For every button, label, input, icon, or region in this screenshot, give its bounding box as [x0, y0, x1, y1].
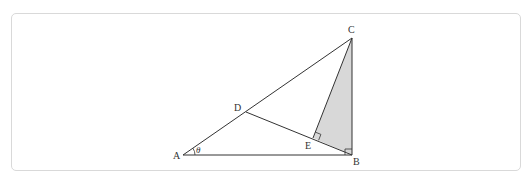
- shaded-triangle-ceb: [313, 38, 352, 155]
- label-d: D: [234, 102, 241, 113]
- geometry-figure: A B C D E θ: [0, 0, 532, 181]
- label-theta: θ: [196, 145, 201, 155]
- label-b: B: [353, 156, 360, 167]
- label-e: E: [305, 140, 311, 151]
- label-a: A: [173, 150, 181, 161]
- angle-arc-a: [193, 148, 195, 155]
- label-c: C: [348, 24, 355, 35]
